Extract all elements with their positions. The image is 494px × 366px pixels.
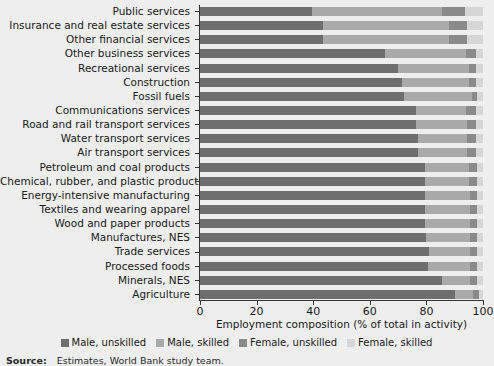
stacked-bar xyxy=(200,49,483,58)
stacked-bar xyxy=(200,205,483,214)
bar-row xyxy=(200,148,483,157)
bar-segment xyxy=(200,233,426,242)
y-axis-tick-label: Other financial services xyxy=(0,35,194,44)
y-axis-tick xyxy=(195,82,199,83)
bar-segment xyxy=(470,205,477,214)
bar-segment xyxy=(428,262,470,271)
bar-row xyxy=(200,219,483,228)
y-axis-tick-label: Water transport services xyxy=(0,134,194,143)
stacked-bar xyxy=(200,64,483,73)
bar-segment xyxy=(200,247,429,256)
legend-label: Female, unskilled xyxy=(250,337,337,348)
legend-item[interactable]: Female, unskilled xyxy=(239,337,337,348)
bar-segment xyxy=(467,134,475,143)
bar-segment xyxy=(476,64,483,73)
bar-segment xyxy=(470,219,477,228)
bar-segment xyxy=(466,106,476,115)
y-axis-tick xyxy=(195,237,199,238)
bar-segment xyxy=(200,191,425,200)
bar-segment xyxy=(200,64,398,73)
y-axis-tick xyxy=(195,138,199,139)
x-axis-tick-label: 0 xyxy=(197,305,204,318)
stacked-bar xyxy=(200,92,483,101)
bar-segment xyxy=(200,7,312,16)
bar-row xyxy=(200,7,483,16)
y-axis-tick xyxy=(195,25,199,26)
y-axis-tick xyxy=(195,11,199,12)
bar-row xyxy=(200,276,483,285)
y-axis-tick-label: Energy-intensive manufacturing xyxy=(0,191,194,200)
y-axis-tick xyxy=(195,252,199,253)
y-axis-tick xyxy=(195,39,199,40)
y-axis-tick xyxy=(195,280,199,281)
legend-item[interactable]: Female, skilled xyxy=(347,337,432,348)
bar-segment xyxy=(469,177,477,186)
bar-segment xyxy=(200,21,323,30)
bar-segment xyxy=(476,148,483,157)
bar-segment xyxy=(404,92,472,101)
bar-segment xyxy=(455,290,473,299)
bar-segment xyxy=(466,49,476,58)
bar-segment xyxy=(416,120,467,129)
bar-segment xyxy=(398,64,469,73)
bar-segment xyxy=(425,191,470,200)
bar-row xyxy=(200,64,483,73)
bar-segment xyxy=(200,276,442,285)
x-axis-tick-label: 80 xyxy=(419,305,433,318)
legend-item[interactable]: Male, unskilled xyxy=(61,337,147,348)
legend-item[interactable]: Male, skilled xyxy=(156,337,229,348)
y-axis-tick-label: Other business services xyxy=(0,49,194,58)
bar-segment xyxy=(477,163,483,172)
y-axis-tick-label: Textiles and wearing apparel xyxy=(0,205,194,214)
bar-segment xyxy=(425,205,470,214)
stacked-bar xyxy=(200,276,483,285)
x-axis-tick-label: 40 xyxy=(306,305,320,318)
y-axis-category-labels: Public servicesInsurance and real estate… xyxy=(0,7,194,299)
y-axis-tick-label: Fossil fuels xyxy=(0,92,194,101)
bar-segment xyxy=(477,92,483,101)
stacked-bar xyxy=(200,106,483,115)
y-axis-tick-label: Communications services xyxy=(0,106,194,115)
bar-segment xyxy=(418,134,468,143)
y-axis-tick-label: Processed foods xyxy=(0,262,194,271)
bar-row xyxy=(200,177,483,186)
y-axis-tick xyxy=(195,153,199,154)
bar-segment xyxy=(449,21,467,30)
stacked-bar xyxy=(200,191,483,200)
y-axis-tick xyxy=(195,68,199,69)
stacked-bar xyxy=(200,290,483,299)
bar-row xyxy=(200,106,483,115)
stacked-bar xyxy=(200,177,483,186)
bar-segment xyxy=(200,290,455,299)
bar-segment xyxy=(477,177,483,186)
y-axis-tick-label: Insurance and real estate services xyxy=(0,21,194,30)
bar-segment xyxy=(476,49,483,58)
stacked-bar xyxy=(200,148,483,157)
y-axis-tick xyxy=(195,195,199,196)
plot-area xyxy=(200,7,483,299)
bar-segment xyxy=(312,7,442,16)
y-axis-tick-label: Chemical, rubber, and plastic products xyxy=(0,177,194,186)
bar-segment xyxy=(470,247,477,256)
bar-segment xyxy=(470,233,477,242)
chart-legend: Male, unskilledMale, skilledFemale, unsk… xyxy=(0,337,493,348)
bar-row xyxy=(200,92,483,101)
y-axis-tick xyxy=(195,96,199,97)
bar-row xyxy=(200,191,483,200)
stacked-bar xyxy=(200,219,483,228)
stacked-bar xyxy=(200,35,483,44)
bar-segment xyxy=(200,262,428,271)
y-axis-tick xyxy=(195,110,199,111)
bar-segment xyxy=(200,49,385,58)
legend-swatch-icon xyxy=(239,339,247,347)
y-axis-tick xyxy=(195,223,199,224)
bar-segment xyxy=(477,191,483,200)
y-axis-tick xyxy=(195,209,199,210)
bar-row xyxy=(200,163,483,172)
bar-segment xyxy=(477,219,483,228)
bar-row xyxy=(200,21,483,30)
bar-segment xyxy=(323,35,449,44)
y-axis-tick-label: Petroleum and coal products xyxy=(0,163,194,172)
y-axis-tick-label: Agriculture xyxy=(0,290,194,299)
stacked-bar xyxy=(200,134,483,143)
